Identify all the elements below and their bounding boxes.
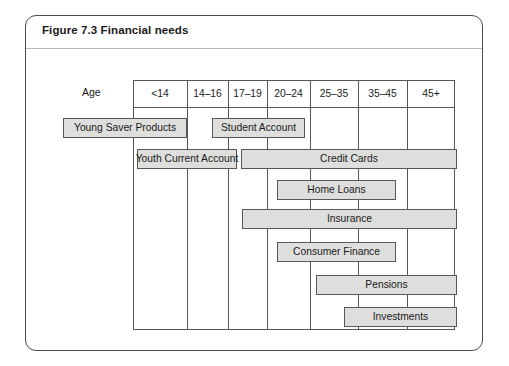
bar-home-loans: Home Loans	[277, 180, 396, 200]
bar-label: Investments	[373, 312, 429, 322]
bar-label: Student Account	[221, 123, 296, 133]
title-divider	[26, 48, 482, 49]
bar-label: Home Loans	[307, 185, 365, 195]
bar-youth-current-account: Youth Current Account	[137, 149, 237, 169]
grid-line-1	[187, 80, 188, 330]
figure-root: Figure 7.3 Financial needs Age <1414–161…	[0, 0, 509, 366]
bar-label: Pensions	[365, 280, 407, 290]
bar-credit-cards: Credit Cards	[241, 149, 457, 169]
bar-consumer-finance: Consumer Finance	[277, 242, 396, 262]
bar-young-saver-products: Young Saver Products	[63, 118, 187, 138]
bar-label: Youth Current Account	[136, 154, 239, 164]
bar-label: Credit Cards	[320, 154, 378, 164]
age-axis-label: Age	[82, 86, 101, 98]
bar-label: Young Saver Products	[74, 123, 176, 133]
figure-title: Figure 7.3 Financial needs	[42, 24, 188, 36]
bar-insurance: Insurance	[242, 209, 457, 229]
bar-label: Consumer Finance	[293, 247, 380, 257]
grid-line-4	[310, 80, 311, 330]
bar-student-account: Student Account	[212, 118, 305, 138]
bar-pensions: Pensions	[316, 275, 457, 295]
bar-label: Insurance	[327, 214, 372, 224]
bar-investments: Investments	[344, 307, 457, 327]
